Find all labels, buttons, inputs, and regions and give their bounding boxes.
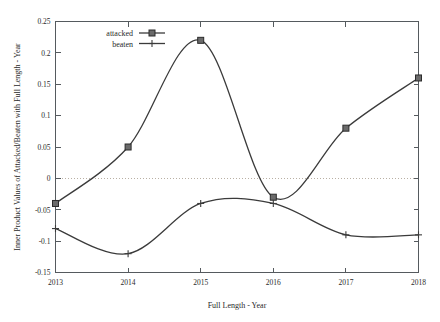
x-tick-label: 2014 [121,278,136,287]
y-tick-label: 0.25 [37,17,50,26]
x-tick-label: 2017 [338,278,353,287]
chart-background [0,0,440,322]
y-tick-label: -0.05 [35,206,51,215]
y-tick-label: -0.15 [35,268,51,277]
y-tick-label: 0.15 [37,80,50,89]
data-point-marker-square [53,200,59,206]
data-point-marker-square [149,30,155,36]
x-tick-label: 2018 [411,278,426,287]
legend-label-attacked: attacked [106,29,133,38]
data-point-marker-square [125,144,131,150]
y-tick-label: 0.05 [37,143,50,152]
x-axis-title: Full Length - Year [208,301,267,310]
y-tick-label: -0.1 [39,237,51,246]
y-axis-title: Inner Product Values of Attacked/Beaten … [13,43,22,251]
x-tick-label: 2013 [48,278,63,287]
y-tick-label: 0.1 [41,111,51,120]
data-point-marker-square [343,125,349,131]
legend-label-beaten: beaten [112,40,133,49]
data-point-marker-square [198,37,204,43]
y-tick-label: 0 [47,174,51,183]
y-tick-label: 0.2 [41,49,51,58]
data-point-marker-square [416,75,422,81]
x-tick-label: 2015 [193,278,208,287]
x-tick-label: 2016 [266,278,281,287]
data-point-marker-square [270,194,276,200]
chart-container: 0.250.20.150.10.050-0.05-0.1-0.15 201320… [0,0,440,322]
line-chart: 0.250.20.150.10.050-0.05-0.1-0.15 201320… [0,0,440,322]
